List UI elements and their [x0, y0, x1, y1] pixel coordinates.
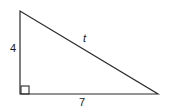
label-vertical-leg: 4 [10, 43, 16, 54]
triangle-outline [20, 11, 158, 94]
label-horizontal-leg: 7 [79, 97, 85, 108]
label-hypotenuse: t [83, 33, 86, 44]
right-angle-square [21, 86, 29, 94]
right-triangle-figure: 4 t 7 [0, 0, 169, 112]
